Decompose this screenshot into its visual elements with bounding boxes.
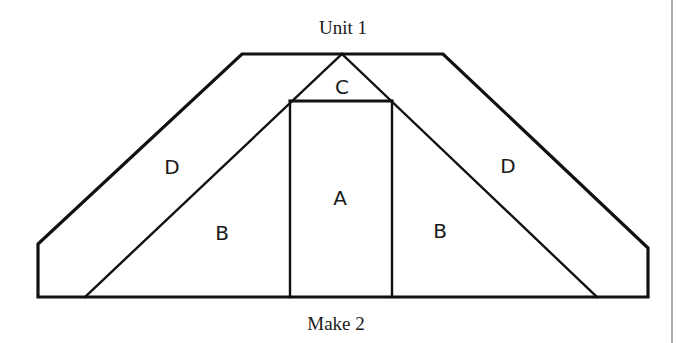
quilt-unit-diagram: Unit 1 C A B B D D Make 2: [0, 0, 676, 343]
piece-label-a: A: [333, 186, 347, 210]
piece-label-c: C: [335, 75, 349, 99]
diagram-title: Unit 1: [319, 17, 367, 38]
diagram-caption: Make 2: [307, 313, 365, 334]
piece-label-b-right: B: [433, 219, 447, 243]
piece-label-b-left: B: [215, 221, 229, 245]
diagram-canvas: Unit 1 C A B B D D Make 2: [0, 0, 676, 343]
left-diagonal: [85, 54, 342, 297]
piece-label-d-right: D: [500, 154, 515, 178]
piece-label-d-left: D: [164, 155, 179, 179]
right-diagonal: [342, 54, 597, 297]
